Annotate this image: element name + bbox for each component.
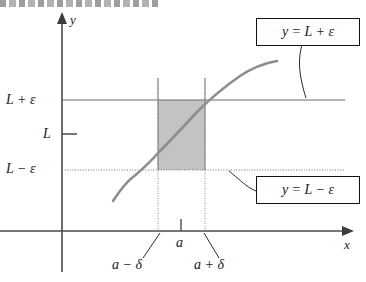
x-axis-label: x [344,238,350,251]
y-tick-label-L: L [43,127,51,141]
callout-label-lower-bound: y = L − ε [282,183,334,197]
leader-a-plus-delta [204,233,219,258]
callout-leader-top [299,42,306,98]
callout-label-upper-bound: y = L + ε [282,25,334,39]
leader-a-minus-delta [143,233,160,258]
limit-definition-figure: L + ε L L − ε y x a a − δ a + δ y = L + … [0,0,366,282]
y-tick-label-L-minus-epsilon: L − ε [6,162,36,176]
y-axis-label: y [70,13,76,26]
y-axis-arrowhead [57,12,67,24]
callout-leader-bottom [229,171,256,191]
x-tick-label-a: a [176,236,183,250]
y-tick-label-L-plus-epsilon: L + ε [6,93,36,107]
x-tick-label-a-minus-delta: a − δ [112,258,142,272]
x-tick-label-a-plus-delta: a + δ [194,258,224,272]
callout-box-lower-bound: y = L − ε [256,176,360,204]
callout-box-upper-bound: y = L + ε [256,18,360,46]
x-axis-arrowhead [342,226,354,236]
